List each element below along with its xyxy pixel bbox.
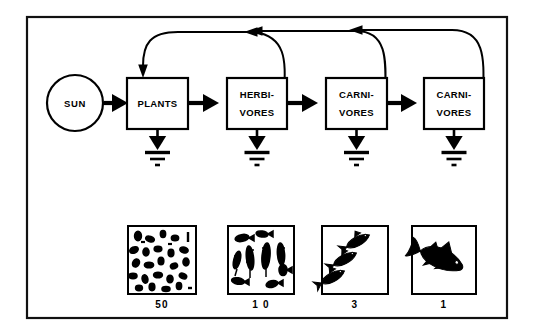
food-chain-diagram: SUN PLANTS HERBI- VORES CARNI- VORES CAR…: [0, 0, 533, 335]
herbivores-box: [227, 78, 287, 129]
node-sun[interactable]: SUN: [47, 75, 103, 131]
panel-zooplankton-count: 1 0: [252, 299, 270, 310]
carnivores-1-label-line-2: VORES: [339, 107, 374, 118]
node-carnivores-1[interactable]: CARNI- VORES: [326, 78, 387, 129]
node-herbivores[interactable]: HERBI- VORES: [227, 78, 287, 129]
plants-label-line-1: PLANTS: [138, 98, 178, 109]
node-plants[interactable]: PLANTS: [127, 78, 188, 129]
sun-label: SUN: [64, 98, 86, 109]
herbivores-label-line-2: VORES: [240, 107, 275, 118]
carnivores-2-label-line-2: VORES: [437, 107, 472, 118]
carnivores-1-label-line-1: CARNI-: [339, 89, 374, 100]
carnivores-1-box: [326, 78, 387, 129]
panel-small-fish-count: 3: [352, 299, 359, 310]
panel-phytoplankton-count: 50: [155, 299, 169, 310]
carnivores-2-label-line-1: CARNI-: [436, 89, 471, 100]
node-carnivores-2[interactable]: CARNI- VORES: [424, 78, 484, 129]
panel-large-fish-count: 1: [441, 299, 448, 310]
herbivores-label-line-1: HERBI-: [240, 89, 275, 100]
carnivores-2-box: [424, 78, 484, 129]
figure-canvas: SUN PLANTS HERBI- VORES CARNI- VORES CAR…: [0, 0, 533, 335]
